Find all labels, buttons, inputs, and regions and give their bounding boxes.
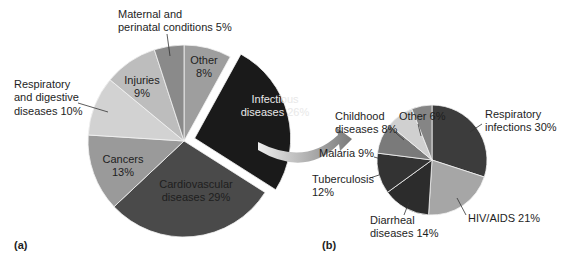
- slice-label-other: Other 6%: [399, 110, 446, 122]
- panel-label-a: (a): [14, 239, 27, 251]
- pie-chart-b: Respiratoryinfections 30%HIV/AIDS 21%Dia…: [312, 105, 557, 239]
- pie-chart-a: Other8%Infectiousdiseases 26%Cardiovascu…: [14, 8, 309, 237]
- slice-label-respiratory-infections: Respiratoryinfections 30%: [485, 108, 557, 133]
- slice-label-cardiovascular-diseases: Cardiovasculardiseases 29%: [159, 178, 233, 203]
- panel-label-b: (b): [322, 239, 336, 251]
- slice-label-malaria: Malaria 9%: [319, 147, 374, 159]
- slice-label-diarrheal-diseases: Diarrhealdiseases 14%: [370, 214, 439, 239]
- figure: Other8%Infectiousdiseases 26%Cardiovascu…: [0, 0, 561, 264]
- slice-label-hiv-aids: HIV/AIDS 21%: [468, 212, 540, 224]
- pie-charts: Other8%Infectiousdiseases 26%Cardiovascu…: [0, 0, 561, 264]
- slice-label-tuberculosis: Tuberculosis12%: [312, 173, 374, 198]
- slice-label-infectious-diseases: Infectiousdiseases 26%: [241, 93, 310, 118]
- slice-label-maternal-and-perinatal-conditions: Maternal andperinatal conditions 5%: [118, 8, 232, 33]
- slice-label-respiratory-and-digestive-diseases: Respiratoryand digestivediseases 10%: [14, 78, 83, 117]
- slice-label-childhood-diseases: Childhooddiseases 8%: [335, 110, 398, 135]
